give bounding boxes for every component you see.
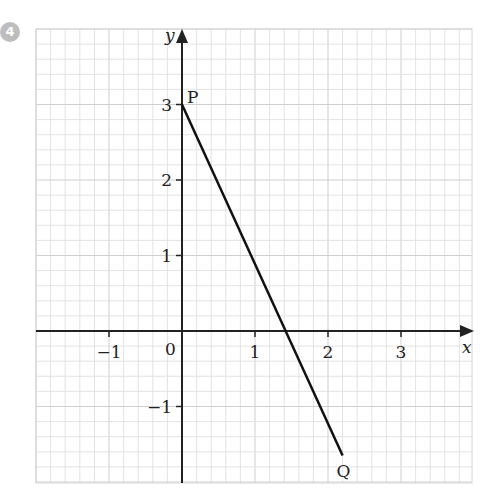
x-axis-label: x [462, 337, 472, 357]
x-tick-label: 1 [250, 342, 261, 362]
x-tick-label: 2 [323, 342, 334, 362]
y-tick-label: 2 [161, 170, 172, 190]
y-tick-label: −1 [147, 397, 172, 417]
grid [36, 29, 472, 483]
line-pq [182, 105, 343, 456]
coordinate-plane: xy0−1123−1123 PQ [0, 0, 495, 498]
point-label-q: Q [337, 461, 351, 481]
y-tick-label: 3 [161, 95, 172, 115]
y-axis-label: y [164, 25, 175, 45]
point-label-p: P [187, 87, 198, 107]
line-segment-pq [182, 105, 343, 456]
x-tick-label: 3 [396, 342, 407, 362]
y-tick-label: 1 [161, 246, 172, 266]
y-axis-arrow-icon [176, 29, 188, 43]
x-tick-label: −1 [96, 342, 121, 362]
origin-label: 0 [165, 339, 176, 359]
